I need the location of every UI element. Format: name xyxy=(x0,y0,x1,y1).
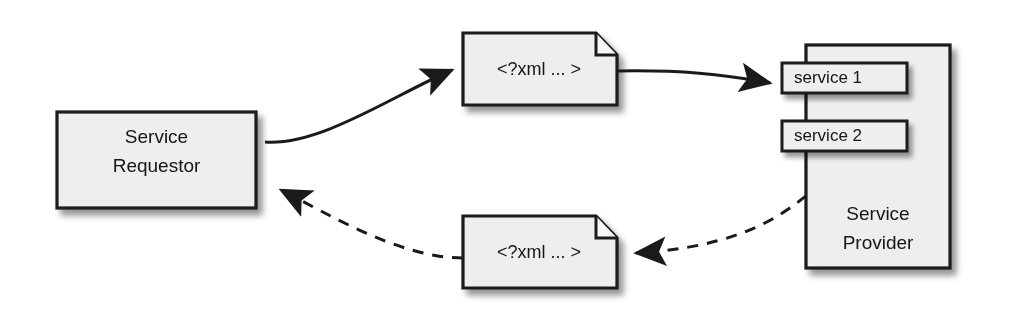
request-document-label: <?xml ... > xyxy=(497,59,581,79)
service-provider-label-line2: Provider xyxy=(843,232,914,253)
connector-provider-to-response-doc xyxy=(636,196,806,253)
service-requestor-label-line2: Requestor xyxy=(113,155,201,176)
service-provider-label-line1: Service xyxy=(846,203,909,224)
service-requestor-node[interactable]: Service Requestor xyxy=(57,112,256,208)
diagram-canvas: Service Requestor Service Provider <?xml… xyxy=(0,0,1015,316)
response-document-node[interactable]: <?xml ... > xyxy=(463,216,617,288)
response-document-label: <?xml ... > xyxy=(497,242,581,262)
connector-requestor-to-request-doc xyxy=(265,70,452,142)
connector-response-doc-to-requestor xyxy=(281,190,463,258)
service-1-label: service 1 xyxy=(794,68,862,87)
service-architecture-diagram: Service Requestor Service Provider <?xml… xyxy=(0,0,1015,316)
service-requestor-label-line1: Service xyxy=(125,126,188,147)
request-document-node[interactable]: <?xml ... > xyxy=(463,33,617,105)
service-2-node[interactable]: service 2 xyxy=(782,121,907,151)
connector-request-doc-to-service-1 xyxy=(617,71,770,83)
service-2-label: service 2 xyxy=(794,126,862,145)
service-1-node[interactable]: service 1 xyxy=(782,63,907,93)
